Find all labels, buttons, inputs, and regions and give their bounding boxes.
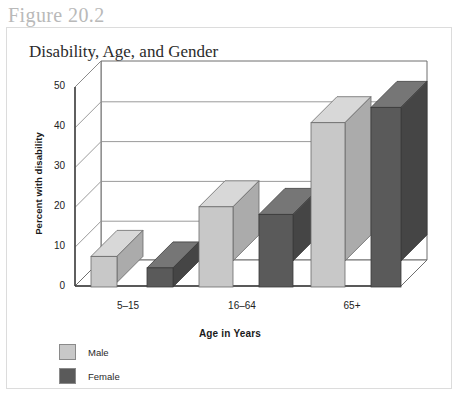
legend-item-male: Male (59, 340, 120, 364)
x-tick-16-64: 16–64 (197, 300, 287, 311)
legend-swatch-female (59, 368, 76, 384)
x-tick-5-15: 5–15 (83, 300, 173, 311)
y-tick-50: 50 (35, 80, 65, 91)
legend-label-male: Male (88, 347, 109, 358)
x-axis-title: Age in Years (7, 328, 453, 339)
legend-label-female: Female (88, 371, 120, 382)
figure-container: Figure 20.2 Disability, Age, and Gender (0, 0, 459, 407)
figure-number-label: Figure 20.2 (8, 4, 105, 27)
y-axis-title: Percent with disability (33, 109, 44, 259)
chart-legend: Male Female (59, 340, 120, 388)
y-tick-0: 0 (35, 280, 65, 291)
legend-item-female: Female (59, 364, 120, 388)
legend-swatch-male (59, 344, 76, 360)
chart-panel: Disability, Age, and Gender (6, 27, 452, 389)
plot-area: 50 40 30 20 10 0 5–15 16–64 65+ Percent … (7, 28, 453, 390)
x-tick-65-plus: 65+ (307, 300, 397, 311)
